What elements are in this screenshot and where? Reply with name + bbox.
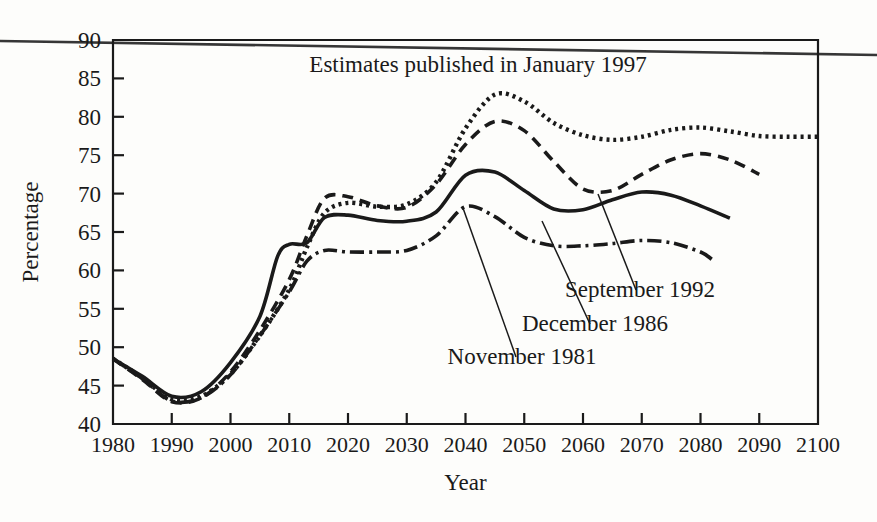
y-tick-label: 55 [78, 297, 101, 322]
x-tick-label: 2050 [502, 432, 546, 457]
y-tick-label: 65 [78, 220, 101, 245]
x-tick-label: 2010 [267, 432, 311, 457]
y-axis-title: Percentage [18, 182, 43, 283]
x-tick-label: 2020 [326, 432, 370, 457]
y-tick-label: 90 [78, 28, 101, 53]
november-1981-annotation: November 1981 [448, 344, 597, 369]
x-tick-label: 2100 [796, 432, 840, 457]
november-1981-annotation-leader [463, 208, 516, 357]
december-1986-annotation-leader [542, 221, 590, 324]
x-tick-label: 2040 [444, 432, 488, 457]
x-tick-label: 2060 [561, 432, 605, 457]
y-tick-label: 45 [78, 374, 101, 399]
december-1986-annotation: December 1986 [522, 311, 668, 336]
annotations-group: Estimates published in January 1997Septe… [309, 52, 715, 369]
x-tick-label: 2080 [679, 432, 723, 457]
x-tick-label: 2030 [385, 432, 429, 457]
january-1997-annotation: Estimates published in January 1997 [309, 52, 646, 77]
x-axis: 1980199020002010202020302040205020602070… [91, 413, 840, 457]
y-tick-label: 60 [78, 258, 101, 283]
y-tick-label: 50 [78, 335, 101, 360]
series-line-november-1981 [113, 206, 712, 402]
x-tick-label: 2070 [620, 432, 664, 457]
x-axis-title: Year [444, 470, 487, 495]
y-tick-label: 85 [78, 66, 101, 91]
x-tick-label: 1980 [91, 432, 135, 457]
y-axis: 4045505560657075808590 [78, 28, 124, 437]
y-tick-label: 80 [78, 105, 101, 130]
september-1992-annotation: September 1992 [565, 277, 715, 302]
series-line-september-1992 [113, 121, 759, 403]
y-tick-label: 70 [78, 182, 101, 207]
x-tick-label: 2090 [737, 432, 781, 457]
y-tick-label: 75 [78, 143, 101, 168]
x-tick-label: 2000 [209, 432, 253, 457]
x-tick-label: 1990 [150, 432, 194, 457]
population-projection-chart: 4045505560657075808590198019902000201020… [0, 0, 877, 522]
